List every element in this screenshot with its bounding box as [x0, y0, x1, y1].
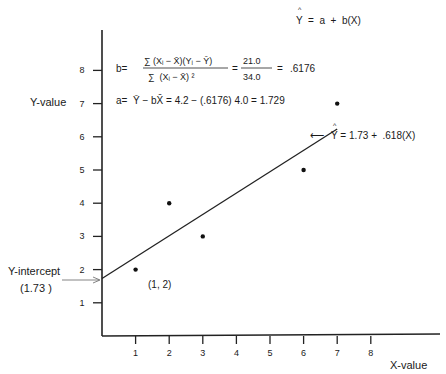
b-equals-1: =	[232, 63, 238, 74]
x-tick-label: 3	[200, 348, 205, 358]
data-point	[167, 201, 171, 205]
y-intercept-label: Y-intercept	[8, 265, 60, 277]
y-tick-label: 7	[79, 99, 84, 109]
b-denominator: ∑ (Xᵢ − X̄) ²	[148, 72, 195, 82]
regression-chart: 12345678 12345678 Y-value X-value ^ Y = …	[0, 0, 446, 374]
x-tick-label: 4	[234, 348, 239, 358]
x-tick-label: 5	[267, 348, 272, 358]
y-tick-label: 8	[79, 65, 84, 75]
data-point	[201, 234, 205, 238]
a-formula: a= Ȳ − bX̄ = 4.2 − (.6176) 4.0 = 1.729	[116, 94, 285, 106]
model-hat: ^	[298, 6, 302, 13]
y-intercept-value: (1.73 )	[20, 282, 52, 294]
b-label: b=	[116, 63, 128, 74]
point-label: (1, 2)	[148, 279, 171, 290]
x-tick-label: 2	[167, 348, 172, 358]
x-tick-label: 1	[133, 348, 138, 358]
data-point	[301, 168, 305, 172]
fitted-hat: ^	[333, 122, 337, 129]
y-ticks: 12345678	[79, 65, 102, 307]
data-point	[335, 101, 339, 105]
fitted-equation: Y = 1.73 + .618(X)	[331, 130, 415, 141]
x-axis-title: X-value	[390, 359, 427, 371]
y-tick-label: 2	[79, 265, 84, 275]
b-equals-2: =	[277, 63, 283, 74]
x-ticks: 12345678	[133, 336, 373, 358]
data-points	[133, 101, 339, 271]
model-equation: Y = a + b(X)	[296, 15, 361, 26]
b-frac-denominator: 34.0	[243, 72, 261, 82]
y-tick-label: 1	[79, 298, 84, 308]
regression-line	[102, 129, 337, 279]
data-point	[133, 267, 137, 271]
y-tick-label: 5	[79, 165, 84, 175]
x-tick-label: 7	[335, 348, 340, 358]
b-value: .6176	[290, 63, 315, 74]
b-frac-numerator: 21.0	[243, 56, 261, 66]
x-axis	[102, 334, 440, 336]
y-tick-label: 4	[79, 198, 84, 208]
x-tick-label: 8	[368, 348, 373, 358]
y-axis-title: Y-value	[30, 96, 66, 108]
y-tick-label: 3	[79, 231, 84, 241]
fitted-arrow: ⟵	[310, 130, 324, 141]
y-tick-label: 6	[79, 132, 84, 142]
x-tick-label: 6	[301, 348, 306, 358]
b-numerator: ∑ (Xᵢ − X̄)(Yᵢ − Ȳ)	[144, 56, 212, 66]
